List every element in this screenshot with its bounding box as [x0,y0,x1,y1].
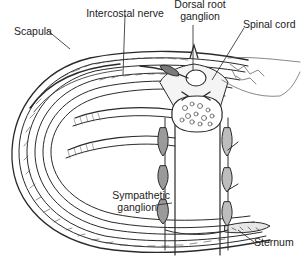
leader-spinal-cord [212,28,244,80]
chest-wall-layers [12,51,270,252]
label-spinal-cord: Spinal cord [243,19,296,30]
label-sympathetic-ganglion-line2: ganglion [98,202,157,213]
label-dorsal-root-ganglion-line1: Dorsal root [165,0,235,10]
label-sympathetic-ganglion-line1: Sympathetic [98,190,170,201]
label-scapula: Scapula [14,26,52,37]
thoracic-cross-section-illustration [0,0,304,275]
label-dorsal-root-ganglion-line2: ganglion [165,11,235,22]
leader-intercostal-nerve [123,15,125,75]
label-sternum: Sternum [254,237,294,248]
label-intercostal-nerve: Intercostal nerve [80,8,170,19]
sternum-shape [225,222,270,233]
